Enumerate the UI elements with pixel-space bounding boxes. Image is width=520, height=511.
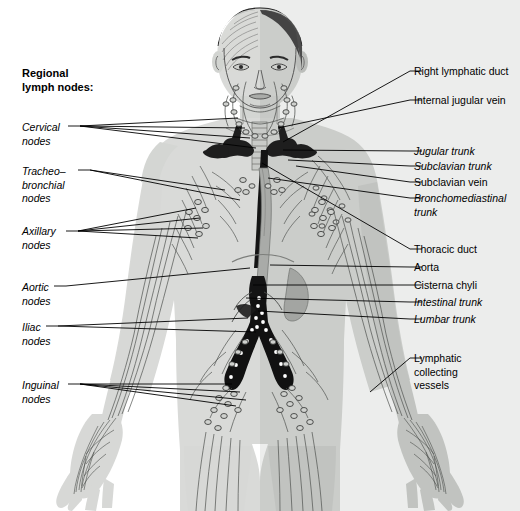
label-lumbar-trunk: Lumbar trunk <box>414 313 476 327</box>
label-line: nodes <box>22 192 66 206</box>
label-line: nodes <box>22 393 59 407</box>
label-line: Lymphatic <box>414 352 461 366</box>
label-subclavian-trunk: Subclavian trunk <box>414 160 492 174</box>
label-iliac-nodes: Iliacnodes <box>22 321 51 348</box>
label-axillary-nodes: Axillarynodes <box>22 225 56 252</box>
label-aortic-nodes: Aorticnodes <box>22 281 51 308</box>
label-line: vessels <box>414 379 461 393</box>
label-line: Cisterna chyli <box>414 279 477 293</box>
label-line: Jugular trunk <box>414 145 475 159</box>
label-line: Thoracic duct <box>414 243 477 257</box>
label-cervical-nodes: Cervicalnodes <box>22 121 60 148</box>
label-line: Axillary <box>22 225 56 239</box>
label-line: nodes <box>22 239 56 253</box>
label-line: Inguinal <box>22 379 59 393</box>
label-line: Cervical <box>22 121 60 135</box>
label-line: Lumbar trunk <box>414 313 476 327</box>
label-line: Tracheo– <box>22 165 66 179</box>
label-line: Aortic <box>22 281 51 295</box>
label-line: Subclavian vein <box>414 176 488 190</box>
label-jugular-trunk: Jugular trunk <box>414 145 475 159</box>
label-line: Right lymphatic duct <box>414 65 509 79</box>
label-internal-jugular-vein: Internal jugular vein <box>414 94 506 108</box>
label-tracheobronchial-nodes: Tracheo–bronchialnodes <box>22 165 66 206</box>
lymphatic-system-figure: CervicalnodesTracheo–bronchialnodesAxill… <box>0 0 520 511</box>
label-inguinal-nodes: Inguinalnodes <box>22 379 59 406</box>
label-thoracic-duct: Thoracic duct <box>414 243 477 257</box>
label-line: Iliac <box>22 321 51 335</box>
label-cisterna-chyli: Cisterna chyli <box>414 279 477 293</box>
label-intestinal-trunk: Intestinal trunk <box>414 296 482 310</box>
label-line: Bronchomediastinal <box>414 192 506 206</box>
label-line: bronchial <box>22 179 66 193</box>
label-line: nodes <box>22 295 51 309</box>
label-aorta: Aorta <box>414 261 439 275</box>
label-line: Subclavian trunk <box>414 160 492 174</box>
label-line: collecting <box>414 366 461 380</box>
label-bronchomediastinal-trunk: Bronchomediastinaltrunk <box>414 192 506 219</box>
label-line: trunk <box>414 206 506 220</box>
label-line: nodes <box>22 335 51 349</box>
label-line: Internal jugular vein <box>414 94 506 108</box>
figure-title: Regional lymph nodes: <box>22 66 94 94</box>
label-subclavian-vein: Subclavian vein <box>414 176 488 190</box>
label-right-lymphatic-duct: Right lymphatic duct <box>414 65 509 79</box>
label-lymphatic-collecting-vessels: Lymphaticcollectingvessels <box>414 352 461 393</box>
label-line: nodes <box>22 135 60 149</box>
label-line: Intestinal trunk <box>414 296 482 310</box>
label-line: Aorta <box>414 261 439 275</box>
